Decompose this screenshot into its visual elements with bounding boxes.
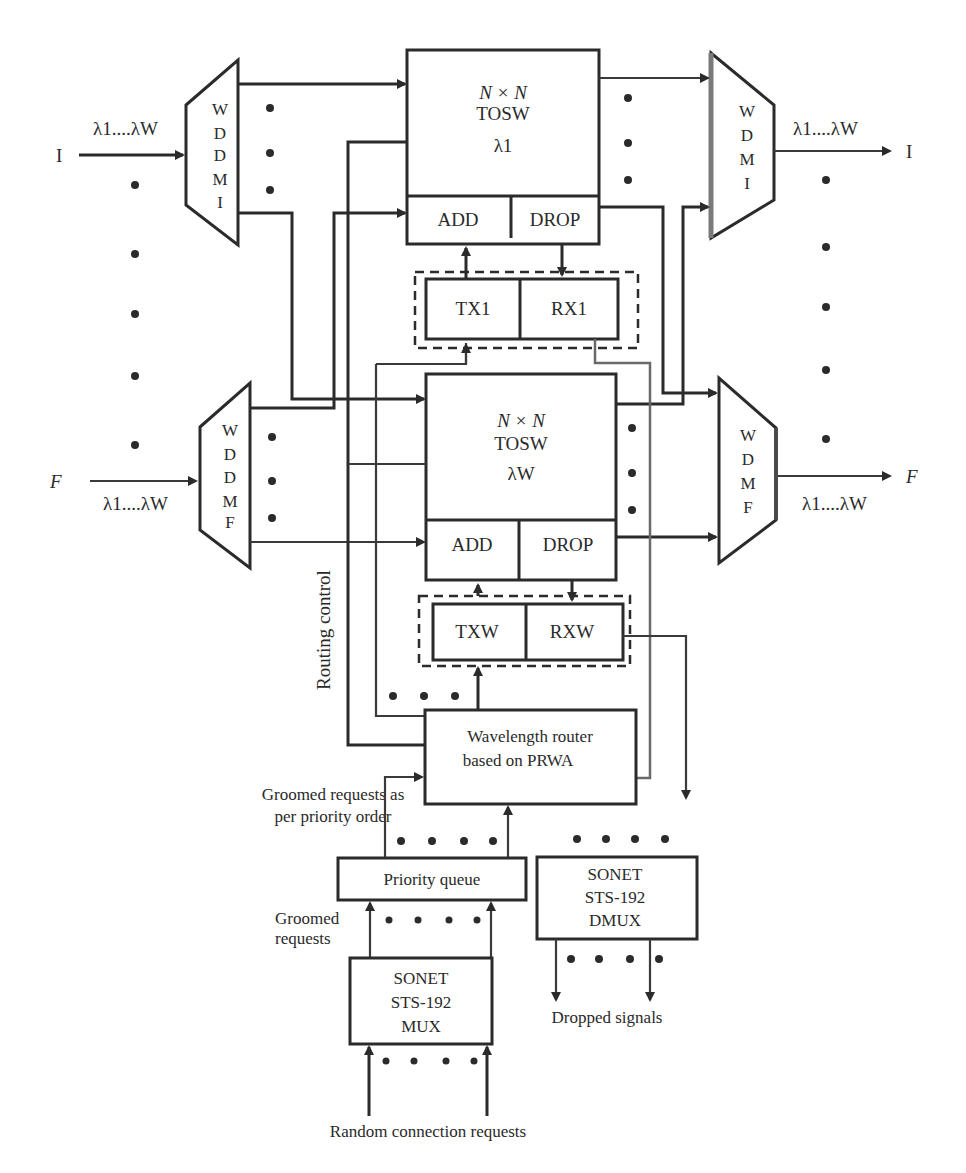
transceiver-bottom: TXW RXW [419,596,630,666]
switch-top-output-dots [624,94,632,184]
output-port-top-label: I [906,141,912,162]
svg-text:M: M [212,170,227,189]
input-port-bottom-label: F [49,471,62,492]
demux-bottom-dots [268,433,276,522]
switch-top-drop: DROP [530,209,581,230]
switch-bottom-name: TOSW [494,433,548,454]
svg-text:D: D [741,126,753,145]
svg-text:W: W [740,426,757,445]
rxw-label: RXW [550,621,594,642]
sonet-dmux-line2: STS-192 [585,888,645,907]
input-port-bottom: F λ1....λW [49,471,196,514]
svg-text:W: W [222,421,239,440]
switch-bottom-size: N × N [496,410,546,431]
groomed-priority-label-line2: per priority order [274,807,391,826]
output-port-bottom-label: F [905,466,918,487]
random-requests-label: Random connection requests [330,1122,526,1141]
tx1-label: TX1 [456,298,491,319]
router-control-dots [389,692,459,700]
wavelength-router-line2: based on PRWA [463,751,574,770]
txw-label: TXW [455,621,498,642]
sonet-mux-line2: STS-192 [391,993,451,1012]
dropped-signals-label: Dropped signals [552,1008,663,1027]
switch-top-wavelength: λ1 [494,135,513,156]
groomed-requests-label-line2: requests [275,929,331,948]
svg-text:W: W [212,100,229,119]
svg-text:M: M [222,492,237,511]
wdm-node-architecture-diagram: I λ1....λW F λ1....λW W D D M I W D D M … [0,0,966,1173]
router-control-tx-line [376,364,426,716]
transceiver-top: TX1 RX1 [415,272,638,348]
switch-bottom-output-dots [628,424,636,514]
dmux-output-dots [567,955,663,963]
switch-top-add: ADD [437,209,478,230]
demux-top: W D D M I [186,60,238,245]
input-wavelengths-bottom: λ1....λW [103,493,168,514]
svg-text:I: I [744,174,750,193]
svg-text:W: W [739,102,756,121]
rx1-label: RX1 [551,298,587,319]
svg-text:I: I [217,193,223,212]
switch-bottom-wavelength: λW [507,463,534,484]
demux-bottom-to-switch-top-add [250,213,405,408]
input-port-top-label: I [56,145,62,166]
mux-queue-dots [386,917,481,924]
demux-bottom: W D D M F [200,383,250,568]
sonet-dmux-line1: SONET [588,865,643,884]
sonet-mux-line3: MUX [401,1017,441,1036]
svg-text:D: D [224,468,236,487]
svg-text:M: M [739,150,754,169]
svg-text:D: D [742,450,754,469]
mux-top: W D M I [711,53,774,238]
wavelength-router-line1: Wavelength router [467,727,593,746]
switch-top-size: N × N [478,82,528,103]
switch-top: N × N TOSW λ1 ADD DROP [407,50,599,244]
svg-text:D: D [214,146,226,165]
demux-top-dots [266,104,274,194]
input-ellipsis-dots [131,181,139,449]
input-wavelengths-top: λ1....λW [93,118,158,139]
svg-text:D: D [214,124,226,143]
groomed-priority-label-line1: Groomed requests as [262,785,405,804]
output-wavelengths-bottom: λ1....λW [802,493,867,514]
switch-bottom-drop: DROP [543,534,594,555]
svg-text:D: D [224,445,236,464]
groomed-requests-label-line1: Groomed [275,909,340,928]
dmux-input-dots [573,835,669,843]
sonet-mux-line1: SONET [394,969,449,988]
output-port-bottom: F λ1....λW [778,466,918,514]
random-request-dots [383,1058,478,1065]
queue-router-dots [397,837,497,845]
output-port-top: λ1....λW I [774,118,912,162]
output-wavelengths-top: λ1....λW [793,118,858,139]
sonet-dmux-line3: DMUX [589,911,641,930]
routing-control-label: Routing control [313,570,334,690]
svg-text:F: F [225,513,234,532]
output-ellipsis-dots [822,176,830,443]
router-to-tx1-line [376,343,466,364]
demux-top-to-switch-bottom [238,213,424,399]
sonet-mux: SONET STS-192 MUX [350,958,492,1044]
wavelength-router: Wavelength router based on PRWA [425,710,636,804]
svg-text:M: M [740,474,755,493]
switch-bottom-add: ADD [451,534,492,555]
priority-queue: Priority queue [338,858,526,900]
priority-queue-label: Priority queue [384,870,481,889]
mux-bottom: W D M F [719,378,776,563]
switch-bottom: N × N TOSW λW ADD DROP [426,374,616,580]
svg-text:F: F [743,498,752,517]
sonet-dmux: SONET STS-192 DMUX [537,857,697,939]
switch-top-name: TOSW [476,103,530,124]
input-port-top: I λ1....λW [56,118,183,166]
